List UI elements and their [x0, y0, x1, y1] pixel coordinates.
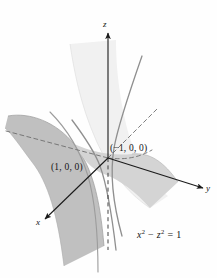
sheet-front-fill	[5, 115, 104, 266]
equation-minus-operator: −	[145, 229, 157, 240]
point-label-negative-one: (−1, 0, 0)	[110, 143, 147, 153]
point-label-positive-one: (1, 0, 0)	[51, 162, 83, 172]
surface-plot-canvas	[0, 0, 217, 278]
equation-equals-one: = 1	[165, 229, 182, 240]
hyperbolic-cylinder-figure: z y x (1, 0, 0) (−1, 0, 0) x2 − z2 = 1	[0, 0, 217, 278]
z-axis-label: z	[103, 19, 107, 29]
y-axis-label: y	[206, 183, 210, 193]
equation-label: x2 − z2 = 1	[137, 228, 181, 240]
sheet-front-branch	[5, 115, 104, 266]
x-axis-label: x	[36, 217, 40, 227]
